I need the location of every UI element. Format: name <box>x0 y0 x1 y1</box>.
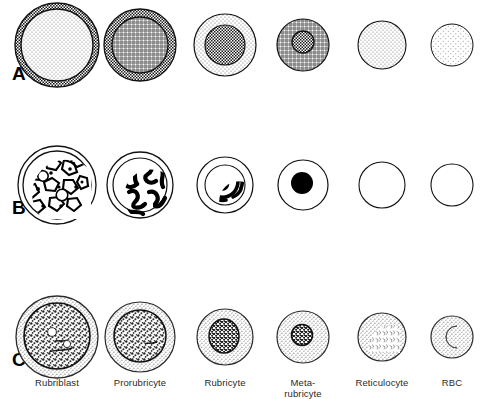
cell-c-reticulocyte <box>354 309 410 365</box>
caption-prorubricyte: Prorubricyte <box>114 378 166 389</box>
cell-a-rbc <box>427 20 477 70</box>
stage-caption-row: Rubriblast Prorubricyte Rubricyte Meta- … <box>0 378 486 399</box>
cell-b-metarubricyte <box>274 156 332 214</box>
cell-c-rubricyte <box>193 305 257 369</box>
cell-b-reticulocyte <box>355 158 409 212</box>
caption-reticulocyte: Reticulocyte <box>356 378 409 389</box>
cell-a-rubricyte <box>190 10 260 80</box>
row-c: C <box>0 292 486 378</box>
cell-a-reticulocyte <box>354 17 410 73</box>
caption-rubriblast: Rubriblast <box>35 378 79 389</box>
erythropoiesis-figure: A <box>0 0 486 399</box>
cell-a-rubriblast <box>11 0 103 91</box>
row-b: B <box>0 140 486 250</box>
cell-a-prorubricyte <box>100 5 180 85</box>
cell-a-metarubricyte <box>273 15 333 75</box>
caption-rbc: RBC <box>442 378 462 389</box>
cell-b-rubriblast <box>14 142 100 228</box>
caption-metarubricyte: Meta- rubricyte <box>284 378 321 399</box>
cell-c-rubriblast <box>12 292 102 382</box>
cell-c-prorubricyte <box>101 298 179 376</box>
row-a: A <box>0 0 486 112</box>
cell-c-metarubricyte <box>273 307 333 367</box>
cell-c-rbc <box>427 312 477 362</box>
cell-b-rubricyte <box>193 153 257 217</box>
cell-b-rbc <box>427 160 477 210</box>
caption-rubricyte: Rubricyte <box>204 378 245 389</box>
cell-b-prorubricyte <box>103 148 177 222</box>
